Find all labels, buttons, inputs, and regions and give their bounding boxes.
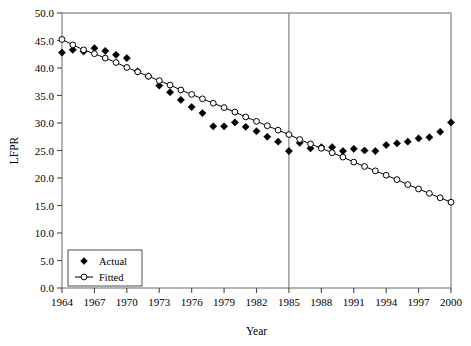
legend-item-label: Actual	[99, 256, 127, 267]
y-axis-tick-label: 50.0	[35, 7, 55, 19]
data-point-fitted	[254, 118, 260, 124]
data-point-fitted	[210, 100, 216, 106]
data-point-fitted	[362, 164, 368, 170]
data-point-actual	[253, 128, 260, 135]
data-point-actual	[361, 147, 368, 154]
data-point-actual	[447, 119, 454, 126]
x-axis-tick-label: 2000	[440, 296, 463, 308]
data-point-fitted	[308, 141, 314, 147]
data-point-actual	[285, 147, 292, 154]
x-axis-tick-label: 1970	[116, 296, 139, 308]
data-point-fitted	[135, 69, 141, 75]
data-point-actual	[404, 138, 411, 145]
data-point-fitted	[113, 60, 119, 66]
data-point-actual	[123, 55, 130, 62]
data-point-fitted	[156, 78, 162, 84]
plot-border	[62, 13, 451, 288]
data-point-actual	[177, 96, 184, 103]
y-axis-tick-label: 35.0	[35, 90, 55, 102]
data-point-actual	[188, 103, 195, 110]
y-axis-tick-label: 15.0	[35, 200, 55, 212]
data-point-fitted	[329, 150, 335, 156]
x-axis-tick-label: 1979	[213, 296, 236, 308]
data-point-fitted	[102, 55, 108, 61]
x-axis-tick-label: 1985	[278, 296, 301, 308]
data-point-actual	[58, 49, 65, 56]
y-axis-tick-label: 45.0	[35, 35, 55, 47]
y-axis-title: LFPR	[8, 136, 20, 164]
data-point-fitted	[437, 195, 443, 201]
data-point-fitted	[124, 65, 130, 71]
y-axis: 0.05.010.015.020.025.030.035.040.045.050…	[35, 7, 62, 294]
data-point-fitted	[167, 82, 173, 88]
y-axis-tick-label: 25.0	[35, 145, 55, 157]
x-axis-tick-label: 1994	[375, 296, 398, 308]
data-point-actual	[199, 110, 206, 117]
data-point-actual	[350, 145, 357, 152]
data-point-actual	[383, 141, 390, 148]
data-point-actual	[220, 123, 227, 130]
y-axis-tick-label: 10.0	[35, 227, 55, 239]
series-fitted	[59, 37, 454, 206]
x-axis-tick-label: 1997	[408, 296, 431, 308]
data-point-fitted	[383, 172, 389, 178]
data-point-fitted	[297, 137, 303, 143]
data-point-actual	[210, 123, 217, 130]
x-axis-tick-label: 1964	[51, 296, 74, 308]
data-point-actual	[372, 147, 379, 154]
data-point-actual	[415, 135, 422, 142]
data-point-actual	[242, 123, 249, 130]
data-point-fitted	[232, 109, 238, 115]
data-point-fitted	[221, 105, 227, 111]
y-axis-tick-label: 30.0	[35, 117, 55, 129]
x-axis: 1964196719701973197619791982198519881991…	[51, 288, 463, 308]
data-point-fitted	[372, 168, 378, 174]
chart-canvas: 0.05.010.015.020.025.030.035.040.045.050…	[0, 0, 471, 346]
data-point-fitted	[416, 186, 422, 192]
data-point-fitted	[146, 73, 152, 79]
data-point-fitted	[405, 182, 411, 188]
data-point-actual	[102, 47, 109, 54]
data-point-fitted	[243, 114, 249, 120]
chart-legend: ActualFitted	[68, 250, 142, 286]
data-point-fitted	[59, 37, 65, 43]
data-point-actual	[231, 119, 238, 126]
x-axis-tick-label: 1991	[343, 296, 365, 308]
data-point-fitted	[448, 199, 454, 205]
x-axis-tick-label: 1976	[181, 296, 204, 308]
data-point-fitted	[340, 154, 346, 160]
y-axis-tick-label: 0.0	[40, 282, 54, 294]
data-point-actual	[437, 128, 444, 135]
x-axis-title: Year	[246, 325, 267, 337]
data-point-fitted	[426, 191, 432, 197]
x-axis-tick-label: 1967	[83, 296, 106, 308]
data-point-fitted	[351, 159, 357, 165]
chart-figure: 0.05.010.015.020.025.030.035.040.045.050…	[0, 0, 471, 346]
y-axis-tick-label: 5.0	[40, 255, 54, 267]
data-point-fitted	[200, 96, 206, 102]
data-point-fitted	[264, 123, 270, 129]
x-axis-tick-label: 1973	[148, 296, 171, 308]
legend-item-label: Fitted	[99, 272, 124, 283]
legend-marker-circle-icon	[81, 274, 87, 280]
data-point-fitted	[178, 87, 184, 93]
data-point-fitted	[318, 145, 324, 151]
data-point-fitted	[394, 177, 400, 183]
data-point-fitted	[286, 132, 292, 138]
y-axis-tick-label: 40.0	[35, 62, 55, 74]
data-point-actual	[275, 138, 282, 145]
data-point-fitted	[70, 42, 76, 48]
plot-frame	[62, 13, 451, 288]
data-point-actual	[166, 89, 173, 96]
x-axis-tick-label: 1982	[246, 296, 268, 308]
data-point-actual	[339, 147, 346, 154]
y-axis-tick-label: 20.0	[35, 172, 55, 184]
data-point-fitted	[275, 127, 281, 133]
data-point-fitted	[189, 92, 195, 98]
data-point-fitted	[81, 47, 87, 53]
data-point-actual	[112, 51, 119, 58]
data-point-fitted	[92, 51, 98, 57]
x-axis-tick-label: 1988	[310, 296, 333, 308]
data-point-actual	[264, 133, 271, 140]
data-point-actual	[393, 140, 400, 147]
